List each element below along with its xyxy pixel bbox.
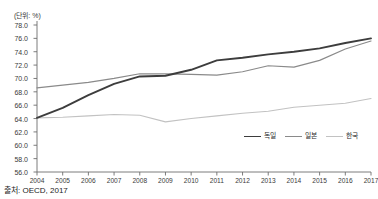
legend-item-한국[interactable]: 한국: [326, 133, 358, 140]
x-tick-label: 2004: [30, 177, 45, 184]
x-tick-label: 2015: [312, 177, 327, 184]
x-tick-label: 2016: [338, 177, 353, 184]
x-axis-labels: 2004200520062007200820092010201120122013…: [0, 0, 378, 199]
x-tick-label: 2017: [364, 177, 378, 184]
legend-label: 한국: [346, 133, 358, 140]
x-tick-label: 2006: [81, 177, 96, 184]
legend-item-독일[interactable]: 독일: [244, 133, 276, 140]
x-tick-label: 2014: [287, 177, 302, 184]
legend-label: 독일: [264, 133, 276, 140]
x-tick-label: 2013: [261, 177, 276, 184]
chart-legend: 독일일본한국: [244, 133, 358, 140]
legend-swatch-icon: [326, 136, 343, 137]
source-note: 출처: OECD, 2017: [4, 184, 68, 195]
legend-swatch-icon: [285, 136, 302, 137]
legend-label: 일본: [305, 133, 317, 140]
x-tick-label: 2009: [158, 177, 173, 184]
legend-item-일본[interactable]: 일본: [285, 133, 317, 140]
chart-container: (단위: %) 56.058.060.062.064.066.068.070.0…: [0, 0, 378, 199]
x-tick-label: 2010: [184, 177, 199, 184]
x-tick-label: 2008: [132, 177, 147, 184]
x-tick-label: 2012: [235, 177, 250, 184]
x-tick-label: 2005: [55, 177, 70, 184]
x-tick-label: 2007: [107, 177, 122, 184]
x-tick-label: 2011: [210, 177, 224, 184]
legend-swatch-icon: [244, 136, 261, 137]
